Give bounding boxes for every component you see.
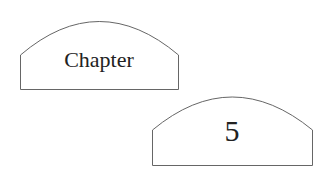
chapter-label: Chapter xyxy=(20,47,178,73)
chapter-number-label: 5 xyxy=(152,114,312,148)
shapes-canvas xyxy=(0,0,332,185)
